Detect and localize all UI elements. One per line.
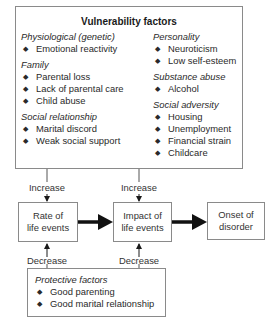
bullet-icon: ◆ (23, 123, 28, 135)
bullet-icon: ◆ (23, 95, 28, 107)
bullet-icon: ◆ (23, 83, 28, 95)
vulnerability-factors-box: Vulnerability factors Physiological (gen… (15, 6, 243, 169)
bullet-icon: ◆ (23, 43, 28, 55)
factor-item: ◆Financial strain (153, 135, 243, 147)
factor-item: ◆Low self-esteem (153, 55, 243, 67)
vulnerability-title: Vulnerability factors (16, 16, 242, 27)
factor-item: ◆Child abuse (21, 95, 146, 107)
increase-label-rate: Increase (17, 182, 77, 193)
bullet-icon: ◆ (155, 123, 160, 135)
category-social-relationship: Social relationship (21, 111, 146, 123)
factor-item: ◆Unemployment (153, 123, 243, 135)
node-rate-of-life-events: Rate oflife events (18, 202, 78, 242)
decrease-label-impact: Decrease (109, 255, 169, 266)
bullet-icon: ◆ (37, 286, 42, 298)
factor-item: ◆Neuroticism (153, 43, 243, 55)
factor-item: ◆Housing (153, 111, 243, 123)
bullet-icon: ◆ (155, 83, 160, 95)
bullet-icon: ◆ (155, 111, 160, 123)
category-protective: Protective factors (35, 274, 154, 286)
vulnerability-left-column: Physiological (genetic) ◆Emotional react… (21, 31, 146, 147)
bullet-icon: ◆ (155, 147, 160, 159)
bullet-icon: ◆ (23, 71, 28, 83)
bullet-icon: ◆ (155, 135, 160, 147)
decrease-label-rate: Decrease (17, 255, 77, 266)
protective-factors-box: Protective factors ◆Good parenting ◆Good… (27, 268, 166, 317)
bullet-icon: ◆ (155, 43, 160, 55)
bullet-icon: ◆ (37, 298, 42, 310)
factor-item: ◆Alcohol (153, 83, 243, 95)
increase-label-impact: Increase (109, 182, 169, 193)
category-personality: Personality (153, 31, 243, 43)
category-physiological: Physiological (genetic) (21, 31, 146, 43)
factor-item: ◆Parental loss (21, 71, 146, 83)
node-impact-of-life-events: Impact oflife events (113, 202, 172, 242)
factor-item: ◆Good marital relationship (35, 298, 154, 310)
node-onset-of-disorder: Onset ofdisorder (207, 202, 265, 240)
factor-item: ◆Lack of parental care (21, 83, 146, 95)
category-substance-abuse: Substance abuse (153, 71, 243, 83)
category-family: Family (21, 59, 146, 71)
factor-item: ◆Emotional reactivity (21, 43, 146, 55)
factor-item: ◆Marital discord (21, 123, 146, 135)
category-social-adversity: Social adversity (153, 99, 243, 111)
bullet-icon: ◆ (23, 135, 28, 147)
bullet-icon: ◆ (155, 55, 160, 67)
factor-item: ◆Good parenting (35, 286, 154, 298)
factor-item: ◆Childcare (153, 147, 243, 159)
vulnerability-right-column: Personality ◆Neuroticism ◆Low self-estee… (153, 31, 243, 159)
factor-item: ◆Weak social support (21, 135, 146, 147)
